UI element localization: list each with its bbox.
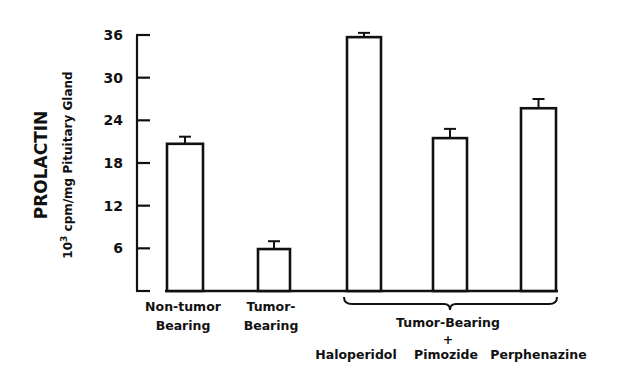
bar: [433, 138, 467, 291]
category-label: Haloperidol: [315, 347, 396, 362]
category-label: Non-tumor: [145, 299, 222, 314]
brace-shape: [344, 297, 557, 310]
group-label: Tumor-Bearing: [396, 315, 500, 330]
bar: [347, 37, 381, 291]
y-axis-units-text: 103 cpm/mg Pituitary Gland: [59, 71, 75, 258]
category-label: Bearing: [156, 318, 211, 333]
prolactin-bar-chart: PROLACTIN 103 cpm/mg Pituitary Gland 612…: [0, 0, 632, 386]
y-axis-title: PROLACTIN 103 cpm/mg Pituitary Gland: [31, 71, 75, 258]
bar: [258, 249, 290, 291]
y-tick-label: 24: [104, 112, 124, 128]
category-label: Tumor-: [246, 299, 295, 314]
bar: [167, 144, 203, 291]
bars: [167, 33, 556, 291]
category-label: Perphenazine: [490, 347, 586, 362]
y-tick-label: 36: [104, 27, 123, 43]
category-label: Bearing: [244, 318, 299, 333]
bar: [521, 108, 556, 291]
y-tick-label: 6: [113, 240, 123, 256]
category-label: Pimozide: [414, 347, 478, 362]
y-tick-label: 12: [104, 198, 123, 214]
group-brace: Tumor-Bearing+: [344, 297, 557, 347]
category-labels: Non-tumorBearingTumor-BearingHaloperidol…: [145, 299, 587, 362]
group-plus: +: [443, 332, 453, 347]
y-tick-label: 18: [104, 155, 123, 171]
y-axis-title-text: PROLACTIN: [31, 111, 51, 220]
y-tick-label: 30: [104, 70, 124, 86]
